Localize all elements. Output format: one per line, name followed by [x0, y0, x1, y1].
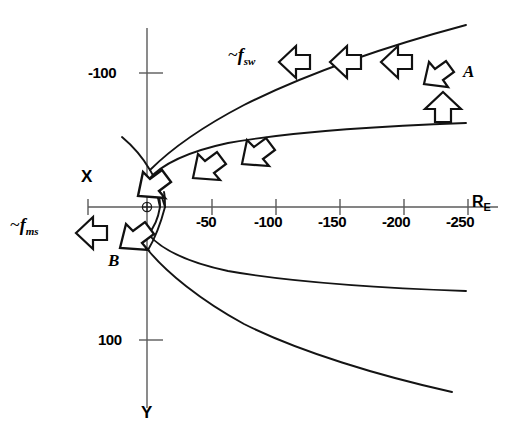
bow-shock-upper-flank: [150, 25, 466, 170]
shock-arrow-a: [424, 61, 454, 87]
tilde-ms: ~: [10, 215, 20, 235]
tilde-sw: ~: [228, 45, 238, 65]
shock-arrow-2: [193, 152, 226, 180]
solar-wind-frequency-label: ~fsw: [228, 46, 255, 67]
point-label-b: B: [108, 252, 119, 269]
shock-arrow-1: [242, 138, 275, 166]
unit-label-e-subscript: E: [484, 201, 491, 213]
solar-wind-arrow-3: [381, 46, 412, 78]
y-axis-label: Y: [141, 404, 152, 421]
unit-label-re: RE: [472, 194, 491, 213]
x-tick-label--200: -200: [382, 214, 410, 229]
unit-label-r: R: [472, 193, 484, 210]
magnetosheath-frequency-label: ~fms: [10, 216, 39, 237]
y-tick-label--100: -100: [88, 65, 116, 80]
x-tick-label--100: -100: [254, 214, 282, 229]
flank-arrow-b: [120, 222, 154, 250]
x-tick-label--250: -250: [446, 214, 474, 229]
sw-subscript: sw: [244, 55, 256, 67]
x-tick-label--150: -150: [318, 214, 346, 229]
bow-shock-nose: [164, 192, 165, 207]
x-tick-label--50: -50: [196, 214, 216, 229]
solar-wind-arrow-2: [330, 46, 361, 78]
x-axis-label: X: [81, 168, 92, 185]
solar-wind-arrow-1: [279, 46, 310, 78]
point-label-a: A: [463, 63, 474, 80]
earth-symbol-icon: [142, 202, 151, 211]
boundary-curves: [122, 25, 466, 392]
bow-shock-lower-curve: [148, 207, 452, 392]
upward-arrow-a: [425, 92, 461, 122]
nose-arrow: [138, 170, 171, 198]
y-tick-label-100: 100: [98, 332, 122, 347]
magnetosheath-arrow: [76, 217, 107, 249]
magnetosphere-figure: -50 -100 -150 -200 -250 -100 100 X Y RE …: [0, 0, 512, 438]
ms-subscript: ms: [26, 225, 39, 237]
